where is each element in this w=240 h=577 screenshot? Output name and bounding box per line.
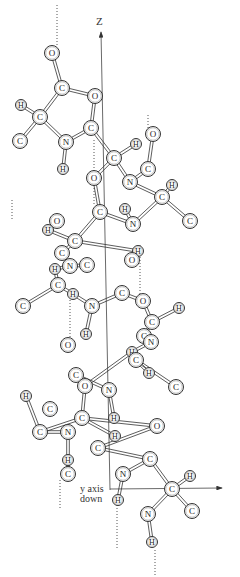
atom-C: C bbox=[61, 467, 76, 482]
svg-text:C: C bbox=[37, 112, 43, 122]
atom-C: C bbox=[75, 411, 90, 426]
bond bbox=[86, 353, 133, 387]
atom-H: H bbox=[68, 289, 79, 300]
atom-O: O bbox=[61, 338, 76, 353]
svg-text:H: H bbox=[52, 265, 58, 274]
svg-text:H: H bbox=[115, 496, 121, 505]
atom-H: H bbox=[50, 264, 61, 275]
atom-N: N bbox=[126, 217, 141, 232]
atom-O: O bbox=[88, 89, 103, 104]
atom-H: H bbox=[113, 495, 124, 506]
atom-C: C bbox=[145, 315, 160, 330]
svg-text:C: C bbox=[59, 83, 65, 93]
atom-C: C bbox=[68, 234, 83, 249]
bond bbox=[98, 447, 150, 458]
svg-text:O: O bbox=[54, 216, 61, 226]
svg-text:C: C bbox=[17, 136, 23, 146]
svg-text:H: H bbox=[18, 101, 24, 110]
atom-C: C bbox=[183, 214, 198, 229]
svg-text:H: H bbox=[176, 304, 182, 313]
atom-C: C bbox=[115, 286, 130, 301]
svg-text:N: N bbox=[148, 337, 155, 347]
bond bbox=[98, 449, 150, 460]
z-axis-label: Z bbox=[96, 16, 103, 26]
svg-text:C: C bbox=[59, 248, 65, 258]
svg-text:H: H bbox=[146, 369, 152, 378]
atom-C: C bbox=[33, 425, 48, 440]
atom-H: H bbox=[131, 139, 142, 150]
atom-H: H bbox=[63, 455, 74, 466]
svg-text:O: O bbox=[65, 340, 72, 350]
atom-H: H bbox=[185, 471, 196, 482]
atom-C: C bbox=[185, 504, 200, 519]
svg-text:O: O bbox=[150, 129, 157, 139]
y-axis-label-line2: down bbox=[80, 494, 102, 504]
svg-text:C: C bbox=[111, 153, 117, 163]
svg-text:C: C bbox=[95, 443, 101, 453]
atom-H: H bbox=[21, 391, 32, 402]
svg-text:H: H bbox=[112, 432, 118, 441]
svg-text:H: H bbox=[60, 165, 66, 174]
atom-C: C bbox=[155, 190, 170, 205]
svg-text:H: H bbox=[65, 456, 71, 465]
atom-C: C bbox=[51, 278, 66, 293]
atom-N: N bbox=[61, 425, 76, 440]
svg-text:C: C bbox=[189, 506, 195, 516]
svg-text:H: H bbox=[111, 414, 117, 423]
atom-O: O bbox=[136, 294, 151, 309]
svg-text:N: N bbox=[120, 469, 127, 479]
atom-C: C bbox=[84, 121, 99, 136]
atom-C: C bbox=[55, 81, 70, 96]
svg-text:C: C bbox=[147, 454, 153, 464]
atom-O: O bbox=[146, 127, 161, 142]
atom-O: O bbox=[125, 253, 140, 268]
atom-H: H bbox=[174, 303, 185, 314]
svg-text:C: C bbox=[73, 370, 79, 380]
atom-O: O bbox=[150, 419, 165, 434]
atom-H: H bbox=[110, 431, 121, 442]
atom-C: C bbox=[43, 402, 58, 417]
svg-text:C: C bbox=[133, 355, 139, 365]
svg-text:C: C bbox=[55, 280, 61, 290]
svg-text:H: H bbox=[122, 205, 128, 214]
svg-text:N: N bbox=[130, 219, 137, 229]
atom-C: C bbox=[80, 258, 95, 273]
svg-text:N: N bbox=[89, 301, 96, 311]
bond bbox=[75, 240, 138, 250]
svg-text:O: O bbox=[129, 255, 136, 265]
svg-text:C: C bbox=[187, 216, 193, 226]
atom-O: O bbox=[87, 171, 102, 186]
atom-N: N bbox=[59, 135, 74, 150]
atom-C: C bbox=[143, 452, 158, 467]
atom-H: H bbox=[144, 368, 155, 379]
svg-text:H: H bbox=[45, 226, 51, 235]
svg-text:C: C bbox=[119, 288, 125, 298]
atom-C: C bbox=[141, 162, 156, 177]
atom-N: N bbox=[102, 383, 117, 398]
atom-C: C bbox=[107, 151, 122, 166]
svg-text:H: H bbox=[70, 290, 76, 299]
atom-H: H bbox=[120, 204, 131, 215]
atom-C: C bbox=[16, 299, 31, 314]
svg-text:H: H bbox=[83, 330, 89, 339]
svg-text:N: N bbox=[67, 261, 74, 271]
svg-text:C: C bbox=[149, 317, 155, 327]
atom-H: H bbox=[43, 225, 54, 236]
svg-text:C: C bbox=[145, 164, 151, 174]
atom-O: O bbox=[78, 379, 93, 394]
atom-C: C bbox=[169, 380, 184, 395]
svg-text:O: O bbox=[82, 381, 89, 391]
atom-N: N bbox=[85, 299, 100, 314]
svg-text:N: N bbox=[106, 385, 113, 395]
svg-text:C: C bbox=[169, 484, 175, 494]
svg-text:O: O bbox=[49, 48, 56, 58]
svg-text:H: H bbox=[23, 392, 29, 401]
alpha-helix-diagram: OCOHCCNCOHCCHONHCCHCNOHCHCONCHCHCCONHCHC… bbox=[0, 0, 240, 577]
svg-text:O: O bbox=[91, 173, 98, 183]
svg-text:C: C bbox=[97, 207, 103, 217]
atom-H: H bbox=[167, 180, 178, 191]
atom-O: O bbox=[45, 46, 60, 61]
atom-N: N bbox=[141, 507, 156, 522]
atom-H: H bbox=[81, 329, 92, 340]
atom-C: C bbox=[93, 205, 108, 220]
